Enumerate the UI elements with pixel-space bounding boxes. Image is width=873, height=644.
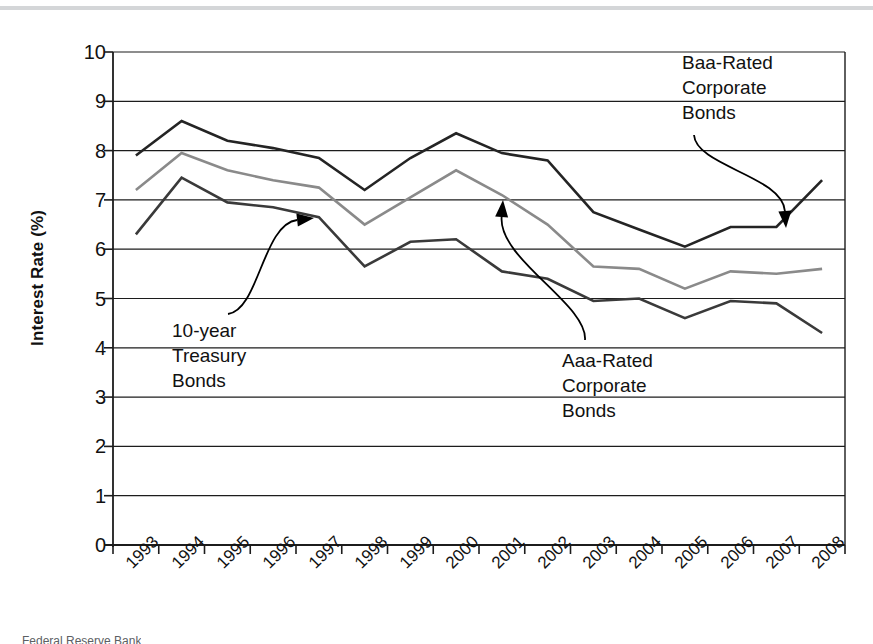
series-line-1	[136, 153, 822, 289]
annotation-arrowhead-aaa-annotation	[495, 200, 508, 217]
annotation-label-aaa-annotation: Aaa-Rated Corporate Bonds	[562, 348, 653, 423]
figure-source-caption: Federal Reserve Bank	[22, 634, 141, 644]
annotation-arrowhead-baa-annotation	[778, 211, 791, 228]
annotation-label-baa-annotation: Baa-Rated Corporate Bonds	[682, 50, 773, 125]
annotation-label-treasury-annotation: 10-year Treasury Bonds	[172, 318, 246, 393]
annotation-leader-treasury-annotation	[228, 220, 297, 314]
